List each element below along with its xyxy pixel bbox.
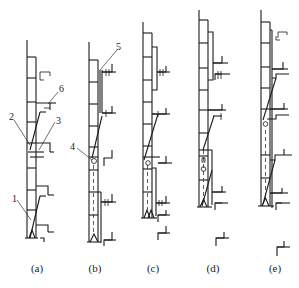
caption-e: (e) xyxy=(269,262,282,275)
panel-a: 1 2 3 6 xyxy=(9,40,64,242)
panel-d xyxy=(197,10,230,246)
caption-d: (d) xyxy=(207,262,220,275)
callout-3: 3 xyxy=(56,115,61,126)
callout-6: 6 xyxy=(59,83,64,94)
callout-5: 5 xyxy=(116,41,121,52)
climbing-formwork-diagram: 1 2 3 6 xyxy=(0,0,299,288)
caption-b: (b) xyxy=(89,262,102,275)
callout-2: 2 xyxy=(9,111,14,122)
caption-c: (c) xyxy=(147,262,160,275)
callout-4: 4 xyxy=(70,141,75,152)
callout-1: 1 xyxy=(12,193,17,204)
panel-c xyxy=(141,22,172,240)
panel-e xyxy=(258,10,292,256)
caption-a: (a) xyxy=(31,262,44,275)
panel-b: 4 5 xyxy=(70,41,121,246)
